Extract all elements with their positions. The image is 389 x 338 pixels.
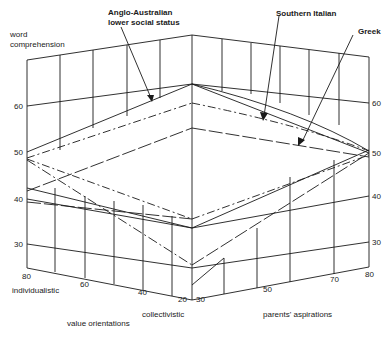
left-tick-30: 30 <box>14 240 23 249</box>
y-axis-title: parents' aspirations <box>263 310 332 320</box>
series-greek <box>27 128 369 285</box>
z-axis-title-line1: word <box>10 30 65 40</box>
back-wall-right <box>192 35 369 267</box>
left-tick-50: 50 <box>14 148 23 157</box>
y-tick-50: 50 <box>263 285 272 294</box>
x-tick-60: 60 <box>80 280 89 289</box>
floor-grid <box>27 160 369 300</box>
right-tick-60: 60 <box>372 99 381 108</box>
left-tick-60: 60 <box>14 102 23 111</box>
x-axis-title: value orientations <box>67 319 130 329</box>
right-tick-40: 40 <box>372 192 381 201</box>
right-tick-50: 50 <box>372 149 381 158</box>
y-tick-80: 80 <box>365 270 374 279</box>
annotation-arrows <box>121 16 353 146</box>
series-anglo-australian <box>27 84 369 228</box>
x-end-individualistic: individualistic <box>12 286 59 296</box>
y-tick-70: 70 <box>330 275 339 284</box>
y-tick-30: 30 <box>196 295 205 304</box>
annotation-anglo-australian: Anglo-Australian lower social status <box>108 8 180 28</box>
left-tick-40: 40 <box>14 195 23 204</box>
x-tick-40: 40 <box>138 288 147 297</box>
annotation-greek: Greek <box>358 27 381 37</box>
annotation-anglo-line2: lower social status <box>108 18 180 28</box>
x-end-collectivistic: collectivistic <box>142 310 184 320</box>
series-southern-italian <box>27 103 369 219</box>
x-tick-20: 20 <box>178 295 187 304</box>
z-axis-title-line2: comprehension <box>10 40 65 50</box>
annotation-anglo-line1: Anglo-Australian <box>108 8 180 18</box>
x-tick-80: 80 <box>22 272 31 281</box>
z-axis-title: word comprehension <box>10 30 65 50</box>
right-tick-30: 30 <box>372 238 381 247</box>
annotation-southern-italian: Southern Italian <box>276 9 336 19</box>
back-wall-left <box>27 35 192 300</box>
